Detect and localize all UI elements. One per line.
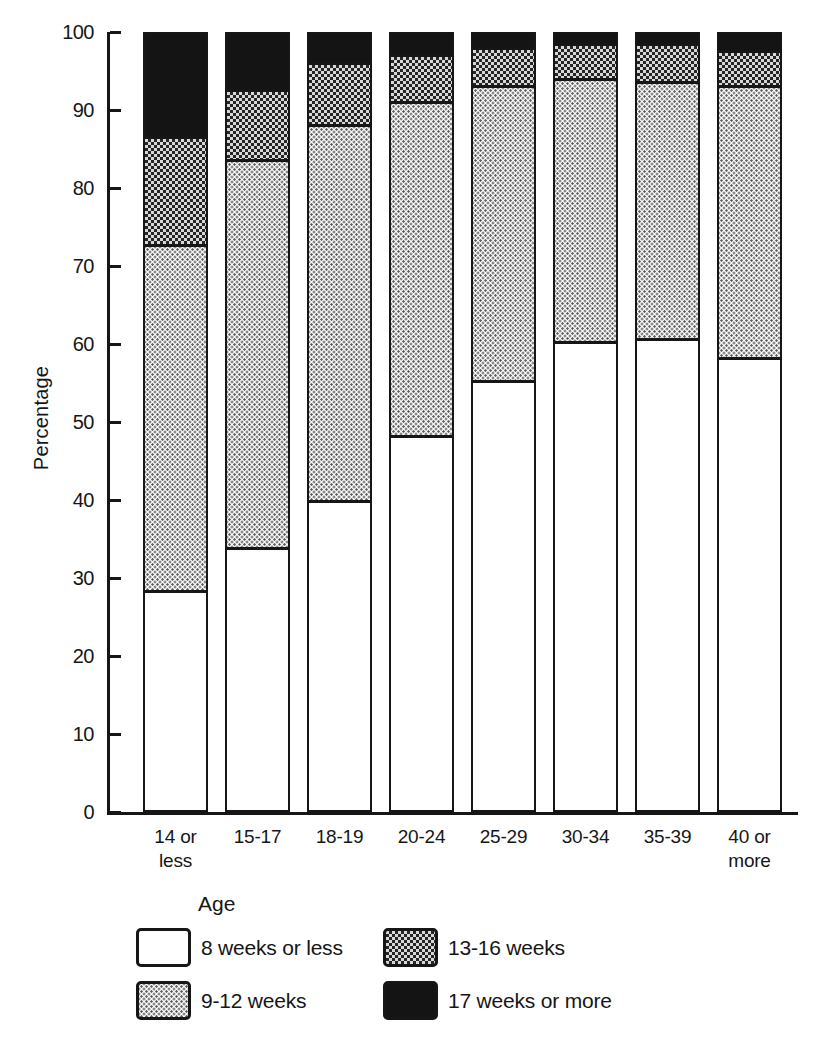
legend-swatch-8-weeks-or-less xyxy=(136,928,191,967)
chart-page: Percentage 010203040506070809010014 orle… xyxy=(0,0,813,1039)
y-axis-tick-label: 30 xyxy=(48,565,94,591)
y-axis-tick-label: 60 xyxy=(48,331,94,357)
x-axis-label-line: more xyxy=(690,849,810,873)
bar-segment-9-12-weeks xyxy=(309,127,370,503)
y-axis-tick-label: 50 xyxy=(48,409,94,435)
bar-segment-9-12-weeks xyxy=(637,84,698,340)
bar-segment-9-12-weeks xyxy=(719,88,780,360)
bar-segment-8-weeks-or-less xyxy=(637,341,698,810)
bar-segment-13-16-weeks xyxy=(227,92,288,162)
legend-label: 8 weeks or less xyxy=(201,936,343,960)
bar-20-24 xyxy=(389,32,454,812)
bar-14-or-less xyxy=(143,32,208,812)
bar-segment-13-16-weeks xyxy=(391,57,452,104)
legend-swatch-13-16-weeks xyxy=(383,928,438,967)
bar-segment-17-weeks-or-more xyxy=(145,34,206,139)
legend-item-13-16-weeks: 13-16 weeks xyxy=(383,928,565,967)
bar-segment-8-weeks-or-less xyxy=(555,344,616,810)
y-axis-tick-label: 0 xyxy=(48,799,94,825)
legend-item-17-weeks-or-more: 17 weeks or more xyxy=(383,981,612,1020)
y-axis-tick xyxy=(110,265,121,268)
y-axis-tick xyxy=(110,811,121,814)
legend-label: 17 weeks or more xyxy=(448,989,612,1013)
bar-30-34 xyxy=(553,32,618,812)
bar-segment-9-12-weeks xyxy=(227,162,288,550)
legend-item-8-weeks-or-less: 8 weeks or less xyxy=(136,928,343,967)
bar-segment-17-weeks-or-more xyxy=(391,34,452,57)
bar-segment-13-16-weeks xyxy=(555,46,616,81)
x-axis-label-line: less xyxy=(116,849,236,873)
bar-40-or-more xyxy=(717,32,782,812)
bar-segment-17-weeks-or-more xyxy=(555,34,616,46)
bar-segment-9-12-weeks xyxy=(391,104,452,438)
y-axis-tick-label: 20 xyxy=(48,643,94,669)
legend-label: 13-16 weeks xyxy=(448,936,565,960)
y-axis-tick-label: 100 xyxy=(48,19,94,45)
bar-segment-8-weeks-or-less xyxy=(145,593,206,810)
y-axis-tick xyxy=(110,109,121,112)
bar-segment-13-16-weeks xyxy=(637,46,698,85)
bar-35-39 xyxy=(635,32,700,812)
bar-segment-8-weeks-or-less xyxy=(391,438,452,810)
y-axis-tick xyxy=(110,499,121,502)
legend-swatch-17-weeks-or-more xyxy=(383,981,438,1020)
bar-segment-9-12-weeks xyxy=(555,81,616,345)
y-axis-tick-label: 70 xyxy=(48,253,94,279)
y-axis-tick xyxy=(110,343,121,346)
y-axis-tick xyxy=(110,733,121,736)
plot-area: 010203040506070809010014 orless15-1718-1… xyxy=(107,32,798,815)
y-axis-tick-label: 80 xyxy=(48,175,94,201)
y-axis-tick xyxy=(110,577,121,580)
legend-label: 9-12 weeks xyxy=(201,989,306,1013)
bar-segment-8-weeks-or-less xyxy=(719,360,780,810)
x-axis-label: 40 ormore xyxy=(690,825,810,873)
bar-15-17 xyxy=(225,32,290,812)
bar-segment-13-16-weeks xyxy=(309,65,370,127)
bar-25-29 xyxy=(471,32,536,812)
bar-segment-8-weeks-or-less xyxy=(309,503,370,810)
y-axis-tick xyxy=(110,187,121,190)
bar-segment-9-12-weeks xyxy=(473,88,534,383)
y-axis-tick xyxy=(110,655,121,658)
legend-item-9-12-weeks: 9-12 weeks xyxy=(136,981,306,1020)
legend-title: Age xyxy=(198,892,235,916)
bar-segment-17-weeks-or-more xyxy=(309,34,370,65)
bar-segment-17-weeks-or-more xyxy=(637,34,698,46)
y-axis-tick xyxy=(110,31,121,34)
bar-18-19 xyxy=(307,32,372,812)
bar-segment-13-16-weeks xyxy=(473,50,534,89)
bar-segment-9-12-weeks xyxy=(145,247,206,592)
y-axis-tick xyxy=(110,421,121,424)
y-axis-tick-label: 90 xyxy=(48,97,94,123)
legend-swatch-9-12-weeks xyxy=(136,981,191,1020)
y-axis-tick-label: 10 xyxy=(48,721,94,747)
x-axis-label-line: 40 or xyxy=(690,825,810,849)
bar-segment-13-16-weeks xyxy=(145,139,206,248)
bar-segment-17-weeks-or-more xyxy=(227,34,288,92)
y-axis-tick-label: 40 xyxy=(48,487,94,513)
bar-segment-17-weeks-or-more xyxy=(719,34,780,53)
bar-segment-8-weeks-or-less xyxy=(227,550,288,810)
bar-segment-13-16-weeks xyxy=(719,53,780,88)
bar-segment-17-weeks-or-more xyxy=(473,34,534,50)
bar-segment-8-weeks-or-less xyxy=(473,383,534,810)
